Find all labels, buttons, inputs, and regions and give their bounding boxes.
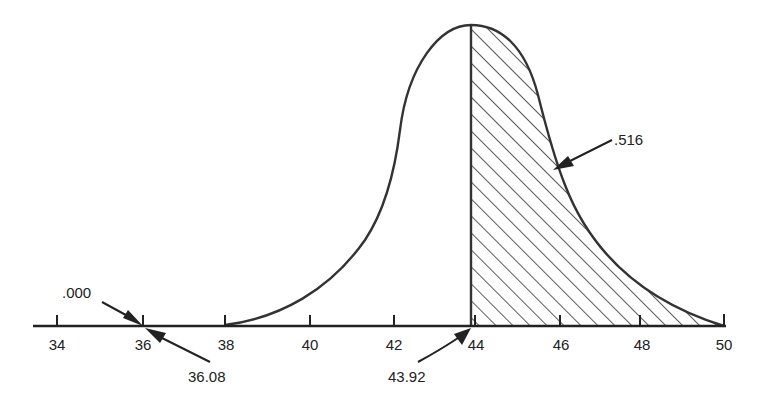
tick-label-36: 36 (135, 336, 152, 353)
svg-text:.516: .516 (614, 131, 643, 148)
annotation-000: .000 (62, 284, 143, 326)
tick-label-44: 44 (468, 336, 485, 353)
tick-label-46: 46 (553, 336, 570, 353)
svg-text:43.92: 43.92 (388, 368, 426, 385)
svg-text:36.08: 36.08 (188, 368, 226, 385)
tick-label-42: 42 (386, 336, 403, 353)
tick-label-34: 34 (49, 336, 66, 353)
tick-label-50: 50 (716, 336, 733, 353)
tick-label-48: 48 (634, 336, 651, 353)
svg-text:.000: .000 (62, 284, 91, 301)
x-tick-labels: 34 36 38 40 42 44 46 48 50 (49, 336, 733, 353)
distribution-chart: 34 36 38 40 42 44 46 48 50 .000 36.08 43… (0, 0, 761, 405)
tick-label-40: 40 (302, 336, 319, 353)
annotation-3608: 36.08 (145, 328, 226, 385)
tick-label-38: 38 (218, 336, 235, 353)
shaded-area (471, 20, 731, 330)
annotation-516: .516 (553, 131, 643, 170)
